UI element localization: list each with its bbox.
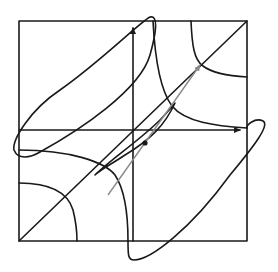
diagram-canvas bbox=[0, 0, 278, 272]
large-closed-loop bbox=[14, 17, 156, 157]
marked-point bbox=[142, 140, 147, 145]
lower-tail-loop bbox=[128, 120, 265, 260]
small-ellipse bbox=[95, 103, 175, 175]
phase-plane-diagram bbox=[0, 0, 278, 272]
